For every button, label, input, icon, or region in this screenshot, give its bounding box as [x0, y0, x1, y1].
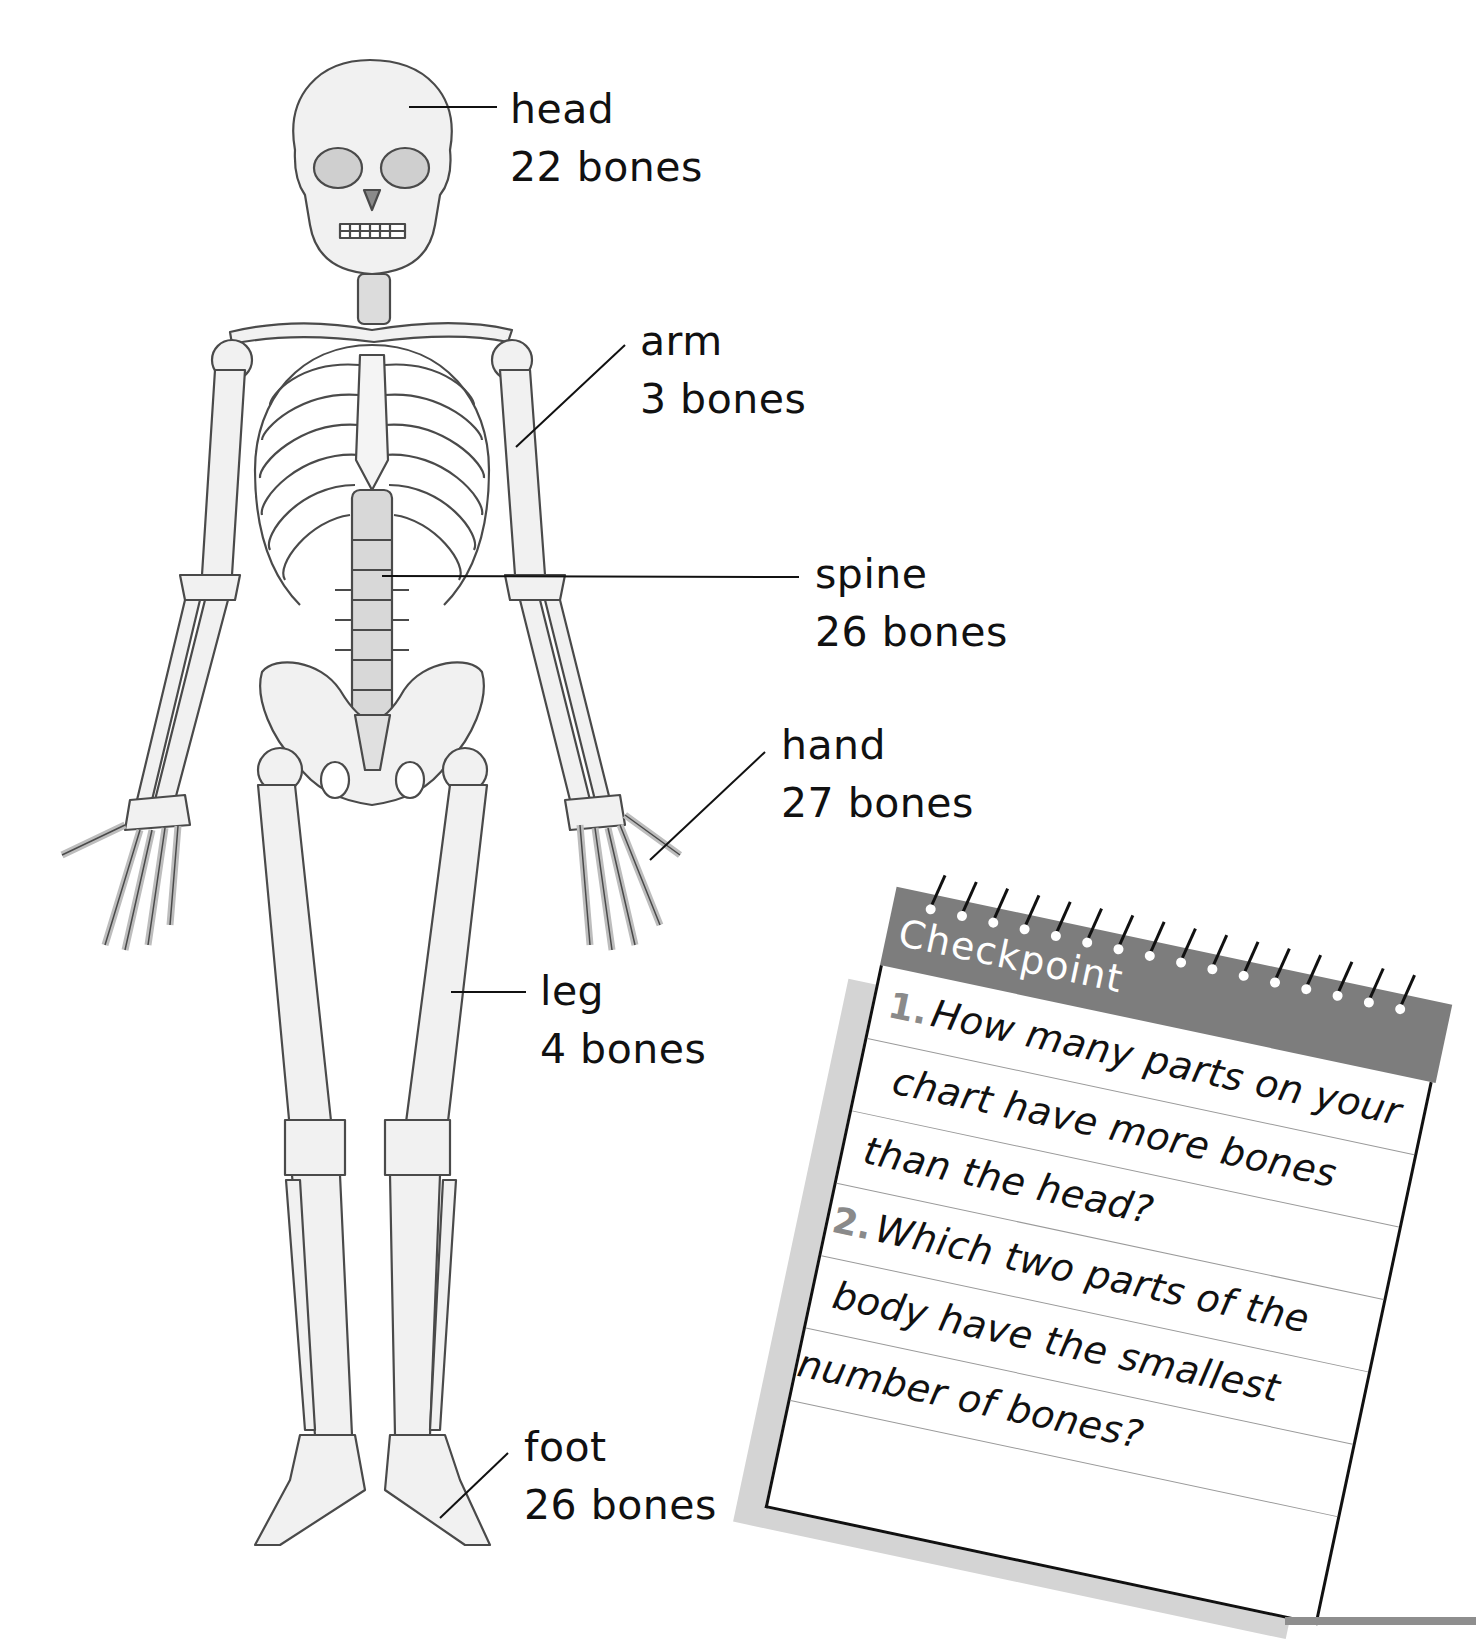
- label-hand: hand 27 bones: [781, 716, 974, 832]
- question-1-number: 1.: [885, 984, 932, 1032]
- label-foot-part: foot: [524, 1418, 717, 1476]
- question-2-number: 2.: [829, 1199, 876, 1247]
- label-head: head 22 bones: [510, 80, 703, 196]
- spiral-hole: [1050, 930, 1062, 942]
- card-body: Checkpoint: [765, 965, 1433, 1625]
- spiral-hole: [1269, 977, 1281, 989]
- spiral-hole: [1332, 990, 1344, 1002]
- label-spine-part: spine: [815, 545, 1008, 603]
- foot-leader-line: [440, 1453, 508, 1518]
- label-arm-count: 3 bones: [640, 370, 806, 428]
- spiral-hole: [925, 903, 937, 915]
- label-foot-count: 26 bones: [524, 1476, 717, 1534]
- label-head-count: 22 bones: [510, 138, 703, 196]
- label-leg: leg 4 bones: [540, 962, 706, 1078]
- spiral-hole: [956, 910, 968, 922]
- page-edge-bar: [1285, 1617, 1476, 1625]
- checkpoint-card: Checkpoint: [764, 965, 1433, 1630]
- spiral-hole: [987, 917, 999, 929]
- spiral-hole: [1144, 950, 1156, 962]
- spine-leader-line: [382, 576, 799, 577]
- spiral-hole: [1394, 1003, 1406, 1015]
- spiral-hole: [1019, 923, 1031, 935]
- label-spine: spine 26 bones: [815, 545, 1008, 661]
- spiral-hole: [1300, 983, 1312, 995]
- hand-leader-line: [650, 752, 765, 860]
- spiral-hole: [1238, 970, 1250, 982]
- spiral-hole: [1206, 963, 1218, 975]
- label-arm: arm 3 bones: [640, 312, 806, 428]
- spiral-hole: [1363, 997, 1375, 1009]
- label-foot: foot 26 bones: [524, 1418, 717, 1534]
- label-hand-count: 27 bones: [781, 774, 974, 832]
- spiral-hole: [1113, 943, 1125, 955]
- label-leg-part: leg: [540, 962, 706, 1020]
- label-leg-count: 4 bones: [540, 1020, 706, 1078]
- label-head-part: head: [510, 80, 703, 138]
- arm-leader-line: [516, 345, 625, 447]
- label-hand-part: hand: [781, 716, 974, 774]
- spiral-hole: [1175, 957, 1187, 969]
- spiral-hole: [1081, 937, 1093, 949]
- label-spine-count: 26 bones: [815, 603, 1008, 661]
- label-arm-part: arm: [640, 312, 806, 370]
